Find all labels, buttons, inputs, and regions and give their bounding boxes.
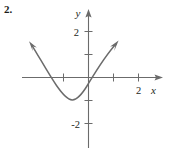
parabola-curve-group <box>29 41 119 100</box>
axes-group <box>22 9 163 148</box>
x-tick-label-2: 2 <box>136 85 141 96</box>
y-tick-label--2: -2 <box>71 119 80 130</box>
x-axis-label: x <box>150 84 156 96</box>
y-tick-label-2: 2 <box>74 27 79 38</box>
y-axis-label: y <box>75 7 81 19</box>
figure-root: 2. 2 -2 <box>0 0 171 154</box>
labels-group: 2 -2 2 x y <box>71 7 156 130</box>
parabola-curve <box>32 44 116 100</box>
coordinate-plot: 2 -2 2 x y <box>0 0 171 154</box>
parabola-left-arrowhead <box>29 41 37 51</box>
